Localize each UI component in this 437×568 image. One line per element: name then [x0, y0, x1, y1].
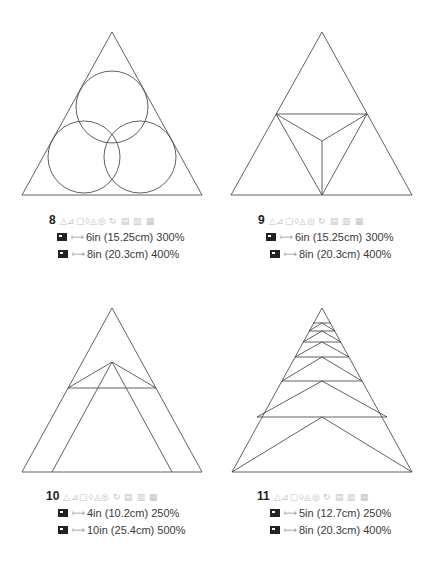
- caption-9: 9△⊿▢◊◬◎ ↻ ▤ ▥ ▦: [258, 213, 364, 228]
- size-row: ⟼10in (25.4cm) 500%: [58, 524, 185, 536]
- pattern-icon: [270, 526, 280, 534]
- dimension-arrow-icon: ⟼: [72, 525, 85, 535]
- technique-symbols-icon: △⊿▢◊◬◎ ↻ ▤ ▥ ▦: [269, 216, 364, 226]
- dimension-arrow-icon: ⟼: [284, 525, 297, 535]
- size-text: 10in (25.4cm) 500%: [87, 524, 185, 536]
- size-text: 8in (20.3cm) 400%: [87, 248, 179, 260]
- figure-11: [232, 308, 412, 472]
- pattern-icon: [58, 509, 68, 517]
- pattern-diagrams: [0, 0, 437, 568]
- figure-9: [231, 32, 412, 195]
- caption-10: 10△⊿▢◊◬◎ ↻ ▤ ▥ ▦: [46, 489, 159, 504]
- dimension-arrow-icon: ⟼: [71, 232, 84, 242]
- size-text: 4in (10.2cm) 250%: [87, 507, 179, 519]
- dimension-arrow-icon: ⟼: [284, 508, 297, 518]
- technique-symbols-icon: △⊿▢◊◬◎ ↻ ▤ ▥ ▦: [60, 216, 155, 226]
- size-row: ⟼8in (20.3cm) 400%: [270, 524, 391, 536]
- dimension-arrow-icon: ⟼: [72, 249, 85, 259]
- pattern-icon: [58, 526, 68, 534]
- pattern-icon: [57, 233, 67, 241]
- technique-symbols-icon: △⊿▢◊◬◎ ↻ ▤ ▥ ▦: [274, 492, 369, 502]
- dimension-arrow-icon: ⟼: [72, 508, 85, 518]
- figure-8: [22, 32, 202, 195]
- pattern-icon: [266, 233, 276, 241]
- size-row: ⟼6in (15.25cm) 300%: [57, 231, 184, 243]
- size-text: 8in (20.3cm) 400%: [299, 524, 391, 536]
- dimension-arrow-icon: ⟼: [284, 249, 297, 259]
- pattern-icon: [58, 250, 68, 258]
- size-text: 8in (20.3cm) 400%: [299, 248, 391, 260]
- size-row: ⟼4in (10.2cm) 250%: [58, 507, 179, 519]
- size-row: ⟼5in (12.7cm) 250%: [270, 507, 391, 519]
- size-text: 5in (12.7cm) 250%: [299, 507, 391, 519]
- caption-8: 8△⊿▢◊◬◎ ↻ ▤ ▥ ▦: [49, 213, 155, 228]
- size-text: 6in (15.25cm) 300%: [295, 231, 393, 243]
- size-text: 6in (15.25cm) 300%: [86, 231, 184, 243]
- size-row: ⟼6in (15.25cm) 300%: [266, 231, 393, 243]
- figure-10: [22, 308, 202, 472]
- dimension-arrow-icon: ⟼: [280, 232, 293, 242]
- pattern-number: 8: [49, 213, 56, 227]
- technique-symbols-icon: △⊿▢◊◬◎ ↻ ▤ ▥ ▦: [63, 492, 158, 502]
- pattern-icon: [270, 250, 280, 258]
- pattern-icon: [270, 509, 280, 517]
- pattern-number: 9: [258, 213, 265, 227]
- caption-11: 11△⊿▢◊◬◎ ↻ ▤ ▥ ▦: [257, 489, 369, 504]
- pattern-number: 10: [46, 489, 59, 503]
- pattern-number: 11: [257, 489, 270, 503]
- size-row: ⟼8in (20.3cm) 400%: [58, 248, 179, 260]
- size-row: ⟼8in (20.3cm) 400%: [270, 248, 391, 260]
